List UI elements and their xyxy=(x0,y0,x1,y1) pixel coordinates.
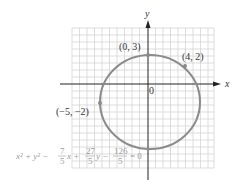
point-label-neg5-neg2: (−5, −2) xyxy=(56,106,89,118)
circle-graph: y x 0 (0, 3) (4, 2) (−5, −2) x² + y² − 7… xyxy=(0,0,244,192)
point-neg5-neg2 xyxy=(98,101,102,105)
y-axis-arrow-icon xyxy=(146,20,151,28)
svg-text:7: 7 xyxy=(60,146,65,156)
svg-text:x² + y² −: x² + y² − xyxy=(15,151,48,161)
svg-text:5: 5 xyxy=(60,156,65,166)
x-axis-arrow-icon xyxy=(213,82,221,87)
svg-text:y −: y − xyxy=(95,151,108,161)
y-axis-label: y xyxy=(144,8,150,19)
circle-curve xyxy=(100,55,200,149)
point-0-3 xyxy=(146,53,150,57)
point-label-4-2: (4, 2) xyxy=(182,51,204,63)
svg-text:126: 126 xyxy=(114,146,128,156)
svg-text:= 0: = 0 xyxy=(130,151,142,161)
svg-text:5: 5 xyxy=(88,156,93,166)
x-axis-label: x xyxy=(224,78,230,89)
origin-label: 0 xyxy=(149,85,154,96)
point-label-0-3: (0, 3) xyxy=(119,41,141,53)
point-4-2 xyxy=(183,64,187,68)
svg-text:x +: x + xyxy=(66,151,79,161)
equation: x² + y² − 7 5 x + 27 5 y − 126 5 = 0 xyxy=(15,146,142,166)
svg-text:5: 5 xyxy=(118,156,123,166)
svg-text:27: 27 xyxy=(86,146,96,156)
